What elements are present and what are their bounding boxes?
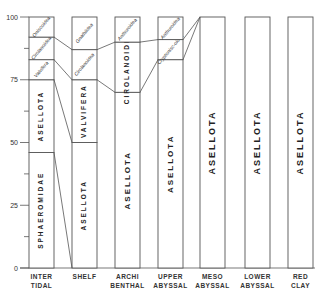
segment-label: SPHAEROMIDAE bbox=[37, 172, 44, 249]
y-tick-label: 75 bbox=[10, 76, 18, 83]
y-axis: 0255075100 bbox=[6, 14, 29, 272]
zone-label: ABYSSAL bbox=[153, 282, 188, 289]
zone-label: LOWER bbox=[244, 273, 271, 280]
segment-label: ASELLOTA bbox=[37, 91, 44, 142]
zone-label: SHELF bbox=[73, 273, 97, 280]
zone-label: ABYSSAL bbox=[240, 282, 275, 289]
segment-label: ASELLOTA bbox=[166, 135, 175, 194]
segment-label: ASELLOTA bbox=[123, 151, 132, 210]
zone-label: BENTHAL bbox=[110, 282, 145, 289]
column-red-clay: ASELLOTAREDCLAY bbox=[288, 17, 313, 289]
segment-label: ASELLOTA bbox=[295, 111, 305, 175]
zone-label: ABYSSAL bbox=[195, 282, 230, 289]
column-archi-benthal: ASELLOTACIROLANOIDEAAnthuroideaARCHIBENT… bbox=[110, 17, 145, 289]
zone-label: RED bbox=[293, 273, 308, 280]
stacked-bar-chart: 0255075100SPHAEROMIDAEASELLOTAValviferaC… bbox=[0, 0, 322, 295]
zone-label: MESO bbox=[202, 273, 223, 280]
y-tick-label: 25 bbox=[10, 202, 18, 209]
column-inter-tidal: SPHAEROMIDAEASELLOTAValviferaCirolanoide… bbox=[29, 15, 54, 289]
y-tick-label: 50 bbox=[10, 139, 18, 146]
zone-label: UPPER bbox=[158, 273, 183, 280]
column-meso-abyssal: ASELLOTAMESOABYSSAL bbox=[195, 17, 230, 289]
segment-label: VALVIFERA bbox=[80, 84, 87, 138]
zone-label: ARCHI bbox=[116, 273, 139, 280]
zone-label: CLAY bbox=[291, 282, 310, 289]
zone-label: INTER bbox=[31, 273, 53, 280]
segment-label: ASELLOTA bbox=[80, 180, 87, 231]
zone-label: TIDAL bbox=[31, 282, 53, 289]
column-lower-abyssal: ASELLOTALOWERABYSSAL bbox=[240, 17, 275, 289]
y-tick-label: 0 bbox=[14, 265, 18, 272]
y-tick-label: 100 bbox=[6, 14, 18, 21]
segment-label: ASELLOTA bbox=[207, 111, 217, 175]
column-shelf: ASELLOTAVALVIFERACirolanoideaGnathiideaS… bbox=[72, 17, 97, 280]
column-upper-abyssal: ASELLOTACryptonisc-oideaAnthuroideaUPPER… bbox=[153, 15, 188, 289]
segment-label: ASELLOTA bbox=[252, 111, 262, 175]
